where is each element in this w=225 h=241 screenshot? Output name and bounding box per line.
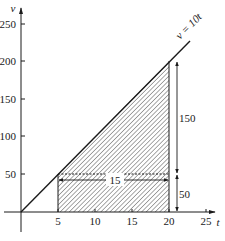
diagram-canvas: 5 10 15 20 25 50 100 150 200 250 t v v =… (0, 0, 225, 241)
lower-height-label: 50 (179, 188, 191, 200)
upper-height-label: 150 (179, 112, 196, 124)
x-tick-10: 10 (90, 215, 102, 227)
x-axis-label: t (216, 216, 220, 228)
shaded-area (58, 61, 169, 212)
y-axis-label: v (11, 2, 16, 14)
y-tick-250: 250 (0, 18, 17, 30)
velocity-time-diagram: 5 10 15 20 25 50 100 150 200 250 t v v =… (0, 0, 225, 241)
y-axis (21, 8, 25, 232)
x-tick-5: 5 (55, 215, 61, 227)
x-tick-20: 20 (164, 215, 176, 227)
y-tick-150: 150 (0, 93, 17, 105)
y-tick-50: 50 (5, 168, 17, 180)
y-tick-200: 200 (0, 55, 17, 67)
y-tick-100: 100 (0, 130, 17, 142)
width-label: 15 (110, 174, 122, 186)
x-tick-25: 25 (201, 215, 213, 227)
line-label: v = 10t (173, 10, 205, 42)
x-tick-15: 15 (127, 215, 139, 227)
